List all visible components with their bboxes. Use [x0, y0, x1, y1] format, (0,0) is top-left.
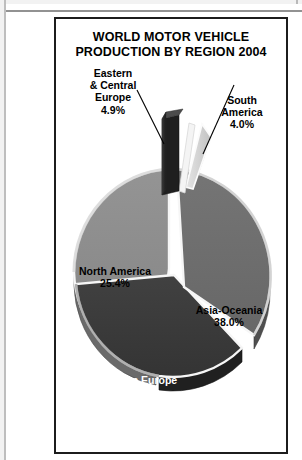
callout-label-south-america: South America 4.0% — [196, 94, 288, 131]
sa-line2: America — [196, 106, 288, 118]
page-sheet: WORLD MOTOR VEHICLE PRODUCTION BY REGION… — [6, 4, 302, 460]
pie-chart: Eastern & Central Europe 4.9% South Amer… — [56, 19, 290, 456]
ece-line2: & Central — [53, 79, 173, 91]
scan-edge-top — [6, 10, 302, 12]
sa-line1: South — [196, 94, 288, 106]
ece-value: 4.9% — [53, 104, 173, 116]
chart-frame: WORLD MOTOR VEHICLE PRODUCTION BY REGION… — [54, 17, 288, 454]
ece-line1: Eastern — [53, 67, 173, 79]
sa-value: 4.0% — [196, 118, 288, 130]
callout-label-eastern-central-europe: Eastern & Central Europe 4.9% — [53, 67, 173, 116]
ece-line3: Europe — [53, 91, 173, 103]
